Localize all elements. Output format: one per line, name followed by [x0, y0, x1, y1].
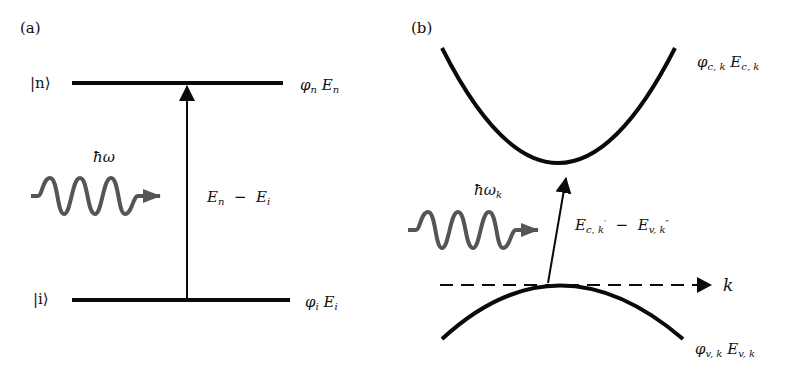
lower-energy-symbol: E — [324, 293, 335, 311]
photon-wave-icon-b — [408, 212, 538, 248]
lower-level-state-energy: φi Ei — [305, 295, 338, 312]
te-b-e1-prime: ′ — [604, 219, 606, 229]
valence-band-curve — [442, 286, 683, 340]
conduction-band-curve — [442, 48, 675, 163]
lower-energy-sub: i — [334, 301, 337, 312]
panel-a-tag: (a) — [20, 21, 41, 36]
te-b-e2-prime: ″ — [666, 219, 669, 229]
cb-state-symbol: φ — [697, 53, 708, 71]
te-a-e2-sub: i — [267, 196, 270, 207]
photon-label-a: ħω — [93, 150, 115, 165]
photon-b-sub: k — [496, 189, 502, 200]
transition-arrow-b — [548, 178, 566, 283]
te-a-minus: − — [234, 188, 247, 206]
panel-b-tag: (b) — [411, 21, 432, 36]
lower-level-ket-text: |i⟩ — [33, 290, 49, 308]
vb-state-symbol: φ — [695, 340, 706, 358]
te-a-e1-sub: n — [218, 196, 224, 207]
vb-energy-sub: v, k — [738, 348, 755, 359]
upper-state-sub: n — [311, 84, 317, 95]
photon-wave-icon-a — [31, 178, 160, 214]
vb-energy-symbol: E — [727, 340, 738, 358]
lower-level-ket: |i⟩ — [33, 292, 49, 307]
vb-state-sub: v, k — [706, 348, 723, 359]
transition-energy-label-a: En − Ei — [207, 190, 270, 207]
upper-level-state-energy: φn En — [300, 78, 339, 95]
energy-transition-diagram: (a) |n⟩ φn En ħω En − Ei |i⟩ φi Ei (b) φ… — [0, 0, 787, 373]
photon-label-b: ħωk — [474, 183, 502, 200]
te-b-e1: E — [575, 216, 586, 234]
te-a-e2: E — [256, 188, 267, 206]
valence-band-label: φv, k Ev, k — [695, 342, 755, 359]
cb-state-sub: c, k — [708, 61, 726, 72]
k-axis-arrowhead — [697, 277, 712, 293]
upper-level-ket: |n⟩ — [30, 76, 51, 91]
cb-energy-symbol: E — [730, 53, 741, 71]
te-b-e2: E — [638, 216, 649, 234]
upper-energy-sub: n — [333, 84, 339, 95]
conduction-band-label: φc, k Ec, k — [697, 55, 759, 72]
te-a-e1: E — [207, 188, 218, 206]
diagram-graphics — [0, 0, 787, 373]
upper-state-symbol: φ — [300, 76, 311, 94]
upper-energy-symbol: E — [322, 76, 333, 94]
lower-state-sub: i — [316, 301, 319, 312]
lower-state-symbol: φ — [305, 293, 316, 311]
te-b-e1-sub: c, k — [586, 224, 604, 235]
k-axis-label: k — [723, 277, 733, 294]
photon-b-text: ħω — [474, 181, 496, 199]
te-b-minus: − — [616, 216, 629, 234]
te-b-e2-sub: v, k — [649, 224, 666, 235]
transition-energy-label-b: Ec, k′ − Ev, k″ — [575, 218, 669, 235]
cb-energy-sub: c, k — [741, 61, 759, 72]
upper-level-ket-text: |n⟩ — [30, 74, 51, 92]
